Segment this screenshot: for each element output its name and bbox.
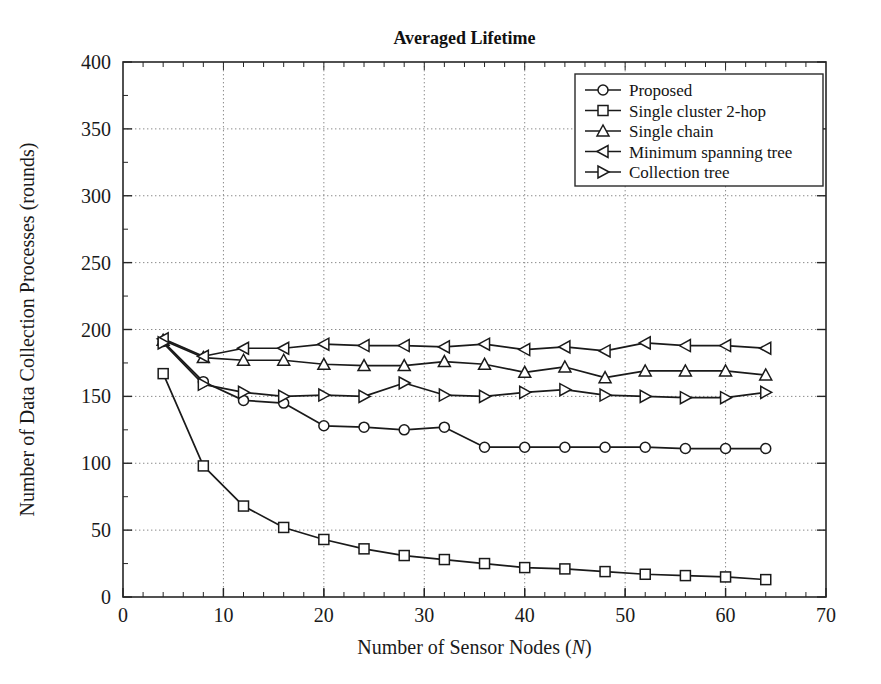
chart-title: Averaged Lifetime (393, 28, 535, 48)
data-point (198, 461, 208, 471)
data-point (640, 442, 650, 452)
ytick-label-250: 250 (81, 252, 111, 274)
data-point (600, 442, 610, 452)
legend-label: Minimum spanning tree (629, 143, 792, 162)
y-axis-title: Number of Data Collection Processes (rou… (16, 143, 39, 517)
data-point (439, 555, 449, 565)
data-point (319, 534, 329, 544)
ytick-label-200: 200 (81, 319, 111, 341)
data-point (560, 564, 570, 574)
x-axis-title-plain: Number of Sensor Nodes ( (357, 636, 572, 659)
ytick-label-0: 0 (101, 586, 111, 608)
data-point (239, 501, 249, 511)
data-point (560, 442, 570, 452)
data-point (158, 369, 168, 379)
ytick-label-350: 350 (81, 118, 111, 140)
legend-marker-square (598, 106, 608, 116)
legend-label: Single chain (629, 122, 714, 141)
data-point (520, 563, 530, 573)
data-point (721, 572, 731, 582)
legend-marker-circle (598, 85, 608, 95)
xtick-label-40: 40 (515, 604, 535, 626)
data-point (680, 571, 690, 581)
data-point (279, 522, 289, 532)
ytick-label-100: 100 (81, 452, 111, 474)
data-point (319, 421, 329, 431)
legend-label: Proposed (629, 81, 693, 100)
xtick-label-60: 60 (716, 604, 736, 626)
x-axis-title-tail: ) (585, 636, 592, 659)
data-point (721, 444, 731, 454)
xtick-label-10: 10 (213, 604, 233, 626)
legend-label: Single cluster 2-hop (629, 102, 766, 121)
ytick-label-50: 50 (91, 519, 111, 541)
xtick-label-50: 50 (615, 604, 635, 626)
data-point (399, 551, 409, 561)
xtick-label-0: 0 (118, 604, 128, 626)
data-point (640, 569, 650, 579)
xtick-label-30: 30 (414, 604, 434, 626)
data-point (600, 567, 610, 577)
data-point (399, 425, 409, 435)
data-point (680, 444, 690, 454)
averaged-lifetime-line-chart: 010203040506070050100150200250300350400A… (0, 0, 881, 684)
legend-label: Collection tree (629, 163, 730, 182)
data-point (520, 442, 530, 452)
data-point (480, 442, 490, 452)
data-point (359, 544, 369, 554)
legend: ProposedSingle cluster 2-hopSingle chain… (575, 74, 823, 186)
ytick-label-300: 300 (81, 185, 111, 207)
ytick-label-400: 400 (81, 51, 111, 73)
data-point (359, 422, 369, 432)
data-point (439, 422, 449, 432)
data-point (480, 559, 490, 569)
x-axis-title: Number of Sensor Nodes (N) (357, 636, 591, 659)
chart-figure: 010203040506070050100150200250300350400A… (0, 0, 881, 684)
ytick-label-150: 150 (81, 385, 111, 407)
data-point (761, 444, 771, 454)
xtick-label-70: 70 (816, 604, 836, 626)
data-point (761, 575, 771, 585)
xtick-label-20: 20 (314, 604, 334, 626)
